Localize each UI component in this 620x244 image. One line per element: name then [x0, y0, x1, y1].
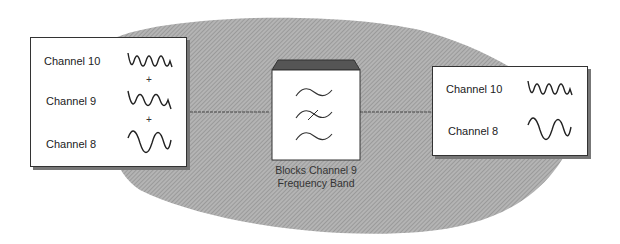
frequency-filter-diagram: Channel 10 + Channel 9 + Channel 8 Block…: [0, 0, 620, 244]
channel-8-label: Channel 8: [448, 125, 498, 137]
input-signal-box: Channel 10 + Channel 9 + Channel 8: [30, 37, 187, 167]
output-signal-box: Channel 10 Channel 8: [432, 66, 588, 156]
low-frequency-wave-icon: [526, 115, 574, 145]
channel-9-label: Channel 9: [46, 95, 96, 107]
band-stop-filter-icon: [268, 58, 364, 163]
channel-10-label: Channel 10: [44, 55, 100, 67]
channel-8-label: Channel 8: [46, 138, 96, 150]
plus-sign: +: [146, 74, 152, 85]
filter-caption-line1: Blocks Channel 9: [248, 164, 384, 177]
filter-caption-line2: Frequency Band: [248, 177, 384, 190]
high-frequency-wave-icon: [526, 77, 574, 101]
medium-frequency-wave-icon: [126, 87, 174, 113]
high-frequency-wave-icon: [126, 49, 174, 73]
plus-sign: +: [146, 114, 152, 125]
filter-caption: Blocks Channel 9 Frequency Band: [248, 164, 384, 190]
channel-10-label: Channel 10: [446, 83, 502, 95]
low-frequency-wave-icon: [126, 128, 174, 158]
